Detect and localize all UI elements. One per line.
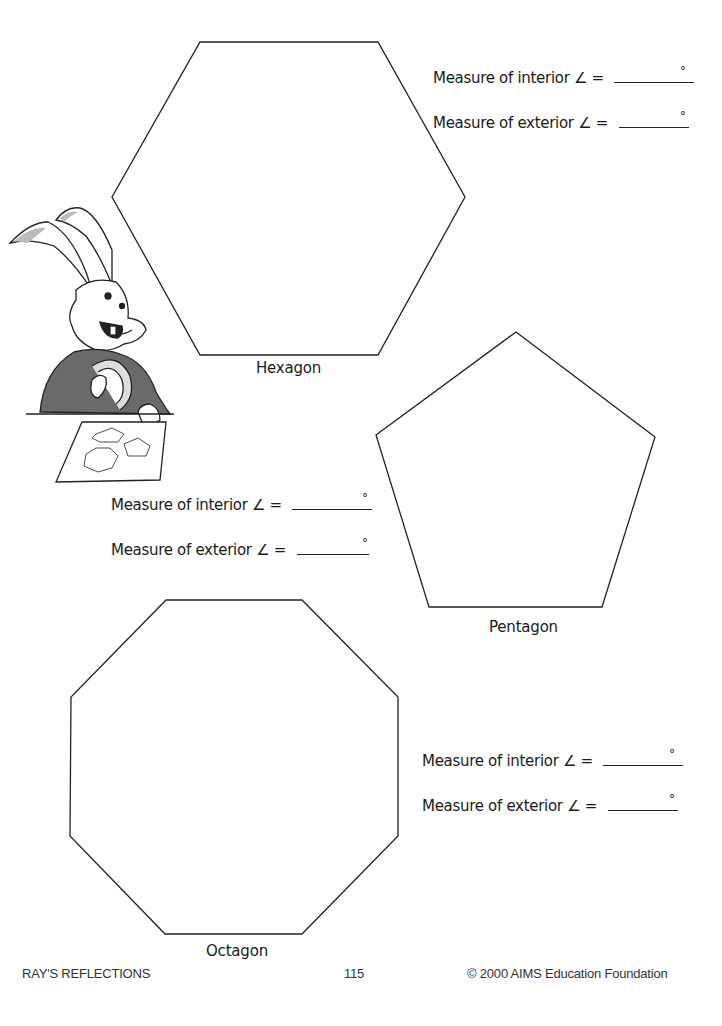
octagon-shape: [70, 600, 398, 934]
degree-symbol: °: [362, 534, 368, 552]
interior-angle-label: Measure of interior ∠ =: [422, 752, 593, 770]
footer-copyright: © 2000 AIMS Education Foundation: [467, 966, 667, 981]
hexagon-label: Hexagon: [256, 359, 321, 377]
degree-symbol: °: [680, 107, 686, 125]
exterior-angle-label: Measure of exterior ∠ =: [111, 541, 286, 559]
octagon-label: Octagon: [206, 942, 268, 960]
pentagon-interior-answer-blank[interactable]: [292, 495, 372, 510]
pentagon-shape: [376, 332, 655, 607]
interior-angle-label: Measure of interior ∠ =: [111, 496, 282, 514]
rabbit-with-protractor-icon: [10, 208, 174, 482]
footer-page-number: 115: [344, 966, 364, 981]
degree-symbol: °: [669, 790, 675, 808]
hexagon-exterior-measure: Measure of exterior ∠ = °: [433, 113, 689, 132]
octagon-exterior-answer-blank[interactable]: [608, 796, 678, 811]
octagon-interior-measure: Measure of interior ∠ = °: [422, 751, 683, 770]
octagon-exterior-measure: Measure of exterior ∠ = °: [422, 796, 678, 815]
footer-book-title: RAY'S REFLECTIONS: [22, 966, 150, 981]
exterior-angle-label: Measure of exterior ∠ =: [422, 797, 597, 815]
exterior-angle-label: Measure of exterior ∠ =: [433, 114, 608, 132]
hexagon-shape: [112, 42, 465, 355]
interior-angle-label: Measure of interior ∠ =: [433, 69, 604, 87]
pentagon-exterior-measure: Measure of exterior ∠ = °: [111, 540, 369, 559]
degree-symbol: °: [680, 62, 686, 80]
pentagon-label: Pentagon: [489, 618, 558, 636]
degree-symbol: °: [669, 745, 675, 763]
pentagon-interior-measure: Measure of interior ∠ = °: [111, 495, 372, 514]
hexagon-exterior-answer-blank[interactable]: [619, 113, 689, 128]
pentagon-exterior-answer-blank[interactable]: [297, 540, 369, 555]
degree-symbol: °: [362, 489, 368, 507]
hexagon-interior-measure: Measure of interior ∠ = °: [433, 68, 694, 87]
